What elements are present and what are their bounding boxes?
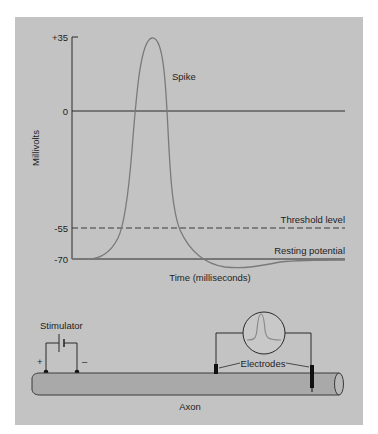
- plus-sign: +: [37, 356, 43, 367]
- electrode-right: [310, 365, 314, 388]
- x-axis-label: Time (milliseconds): [169, 272, 250, 283]
- threshold-label: Threshold level: [281, 214, 345, 225]
- spike-curve: [72, 38, 345, 268]
- electrode-pointer-right: [286, 363, 309, 367]
- axon-label: Axon: [179, 401, 201, 412]
- y-tick-label: +35: [52, 32, 68, 43]
- y-tick-label: -55: [54, 223, 68, 234]
- axon-end: [335, 373, 344, 395]
- y-tick-label: -70: [54, 254, 68, 265]
- axon: [32, 373, 339, 395]
- resting-label: Resting potential: [274, 245, 345, 256]
- apparatus-diagram: Stimulator + – Axon Electrodes: [32, 312, 344, 412]
- minus-sign: –: [82, 356, 88, 367]
- stimulator-label: Stimulator: [40, 320, 83, 331]
- y-axis-label: Millivolts: [30, 130, 41, 166]
- battery-icon: [46, 334, 77, 370]
- chart: +35 0 -55 -70 Millivolts Threshold level…: [30, 32, 345, 283]
- electrodes-label: Electrodes: [241, 358, 286, 369]
- electrode-left: [214, 364, 218, 374]
- y-tick-label: 0: [63, 106, 68, 117]
- electrode-pointer-left: [219, 363, 240, 368]
- spike-annotation: Spike: [172, 71, 196, 82]
- figure-canvas: +35 0 -55 -70 Millivolts Threshold level…: [0, 0, 378, 434]
